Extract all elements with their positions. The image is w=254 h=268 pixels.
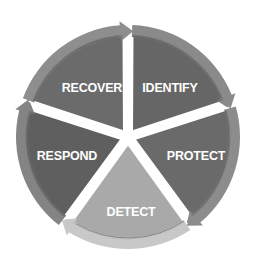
segment-label-respond: RESPOND [37,149,98,163]
segment-label-recover: RECOVER [62,81,123,95]
segment-label-detect: DETECT [107,205,156,219]
segment-label-protect: PROTECT [167,149,226,163]
cycle-diagram: IDENTIFY PROTECT DETECT RESPOND RECOVER [0,0,254,268]
segment-label-identify: IDENTIFY [142,81,198,95]
